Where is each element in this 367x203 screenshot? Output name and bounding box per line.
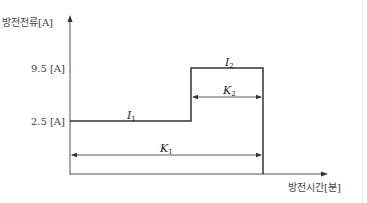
y-axis-arrow-icon [68, 15, 73, 22]
label-i1: I1 [126, 109, 136, 123]
tick-label-2.5: 2.5 [A] [31, 116, 65, 127]
current-profile-line [70, 68, 263, 174]
discharge-current-diagram: 방전전류[A] 방전시간[분] 9.5 [A] 2.5 [A] I1 I2 K2… [0, 0, 367, 203]
label-k1: K1 [159, 142, 173, 156]
label-k2: K2 [222, 84, 236, 98]
tick-label-9.5: 9.5 [A] [31, 63, 65, 74]
label-i2: I2 [224, 56, 234, 70]
page-edge-divider [362, 0, 363, 203]
x-axis-label: 방전시간[분] [288, 182, 341, 193]
x-axis-arrow-icon [321, 172, 328, 177]
y-axis-label: 방전전류[A] [2, 17, 53, 28]
